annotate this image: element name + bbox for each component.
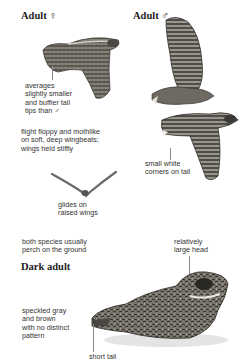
heading-dark-adult: Dark adult xyxy=(21,261,70,272)
caption-male-tail: small white corners on tail xyxy=(145,160,190,177)
caption-line: short tail xyxy=(89,353,116,361)
caption-head: relatively large head xyxy=(174,238,208,255)
nightjar-perched-illustration xyxy=(86,268,236,350)
caption-line: corners on tail xyxy=(145,168,190,176)
nightjar-male-flying-upper-illustration xyxy=(148,14,218,106)
caption-line: raised wings xyxy=(58,209,98,217)
caption-line: tips than ♂ xyxy=(25,107,72,115)
caption-plumage: speckled gray and brown with no distinct… xyxy=(22,307,69,341)
gliding-silhouette-illustration xyxy=(50,170,120,200)
leader-line-head xyxy=(189,256,190,274)
caption-line: wings held stiffly xyxy=(21,145,100,153)
heading-adult-female: Adult ♀ xyxy=(21,10,57,21)
leader-line-short-tail xyxy=(93,324,94,352)
caption-short-tail: short tail xyxy=(89,353,116,361)
caption-line: pattern xyxy=(22,332,69,340)
leader-line-female-tail xyxy=(52,66,53,80)
caption-glide: glides on raised wings xyxy=(58,201,98,218)
caption-female-tail: averages slightly smaller and buffier ta… xyxy=(25,82,72,116)
caption-line: large head xyxy=(174,246,208,254)
caption-line: perch on the ground xyxy=(22,246,87,254)
caption-perch: both species usually perch on the ground xyxy=(22,238,87,255)
caption-flight: flight floppy and mothlike on soft, deep… xyxy=(21,128,100,153)
